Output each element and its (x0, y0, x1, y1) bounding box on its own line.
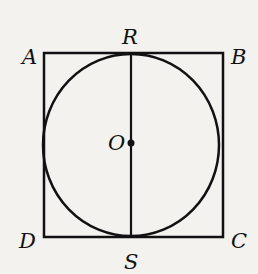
label-d: D (18, 229, 36, 253)
label-c: C (231, 229, 247, 253)
center-point-o (128, 140, 135, 147)
diagram-canvas: A B C D R S O (0, 0, 258, 274)
label-a: A (20, 45, 37, 69)
label-o: O (108, 131, 125, 155)
label-s: S (124, 250, 138, 274)
label-b: B (230, 45, 246, 69)
label-r: R (121, 25, 138, 49)
